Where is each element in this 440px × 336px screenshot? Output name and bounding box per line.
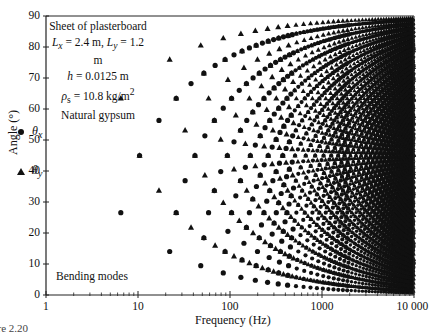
circle-marker <box>352 254 355 257</box>
circle-marker <box>306 110 310 114</box>
circle-marker <box>221 270 226 275</box>
circle-marker <box>297 66 301 70</box>
circle-marker <box>332 265 336 269</box>
circle-marker <box>285 283 290 288</box>
triangle-marker <box>324 69 329 74</box>
y-tick-label: 10 <box>29 257 41 269</box>
triangle-marker <box>320 130 325 135</box>
x-tick-label: 1 <box>43 300 49 312</box>
circle-marker <box>353 289 356 292</box>
circle-marker <box>327 275 331 279</box>
circle-marker <box>298 195 302 199</box>
triangle-marker <box>337 49 342 54</box>
circle-marker <box>332 276 336 280</box>
triangle-marker <box>246 95 252 100</box>
y-tick-label: 60 <box>29 102 41 114</box>
triangle-marker <box>259 265 265 270</box>
triangle-marker <box>290 79 296 84</box>
triangle-marker <box>212 242 218 247</box>
triangle-marker <box>303 192 308 197</box>
bending-modes-label: Bending modes <box>56 270 128 282</box>
circle-marker <box>367 290 370 293</box>
triangle-marker <box>280 271 286 276</box>
triangle-marker <box>301 170 306 175</box>
circle-marker <box>247 45 252 50</box>
triangle-marker <box>299 206 304 211</box>
circle-marker <box>278 57 283 62</box>
triangle-marker <box>313 77 318 82</box>
triangle-marker <box>331 30 336 35</box>
circle-marker <box>412 81 415 84</box>
circle-marker <box>358 273 361 276</box>
circle-marker <box>352 148 355 151</box>
triangle-marker <box>321 45 326 50</box>
circle-marker <box>294 128 298 132</box>
triangle-marker <box>319 72 324 77</box>
circle-marker <box>351 263 354 266</box>
triangle-marker <box>266 50 272 55</box>
circle-marker <box>364 290 367 293</box>
circle-marker <box>284 96 289 101</box>
circle-marker <box>306 93 310 97</box>
circle-marker <box>282 219 287 224</box>
info-dimensions: Lx = 2.4 m, Ly = 1.2 m <box>48 35 148 69</box>
circle-marker <box>238 128 243 133</box>
triangle-marker <box>241 65 247 70</box>
triangle-marker <box>351 53 355 57</box>
circle-marker <box>244 118 249 123</box>
circle-marker <box>362 266 365 269</box>
triangle-marker <box>321 113 326 118</box>
triangle-marker <box>345 18 350 23</box>
circle-marker <box>299 142 303 146</box>
triangle-marker <box>296 183 301 188</box>
circle-marker <box>304 131 308 135</box>
circle-marker <box>357 289 360 292</box>
triangle-marker <box>269 161 275 166</box>
triangle-marker <box>266 215 272 220</box>
triangle-marker <box>340 18 345 23</box>
triangle-marker <box>301 21 306 26</box>
circle-marker <box>357 281 360 284</box>
triangle-marker <box>323 57 328 62</box>
circle-marker <box>281 34 286 39</box>
circle-marker <box>287 139 292 144</box>
circle-marker <box>281 77 286 82</box>
circle-marker <box>231 52 236 57</box>
circle-marker <box>322 194 326 198</box>
circle-marker <box>329 137 333 141</box>
circle-marker <box>262 66 267 71</box>
circle-marker <box>412 113 415 116</box>
circle-marker <box>305 238 309 242</box>
triangle-marker <box>323 96 328 101</box>
triangle-marker <box>167 56 173 61</box>
circle-marker <box>331 165 335 169</box>
circle-marker <box>319 205 323 209</box>
circle-marker <box>250 109 255 114</box>
y-tick-label: 80 <box>29 40 41 52</box>
triangle-marker <box>315 158 320 163</box>
circle-marker <box>259 222 264 227</box>
triangle-marker <box>206 95 212 100</box>
circle-marker <box>350 289 353 292</box>
triangle-marker <box>285 23 291 28</box>
circle-marker <box>250 75 255 80</box>
circle-marker <box>354 272 357 275</box>
circle-marker <box>225 229 230 234</box>
triangle-marker <box>296 134 301 139</box>
circle-marker <box>301 159 305 163</box>
circle-marker <box>296 249 300 253</box>
triangle-marker <box>337 39 342 44</box>
circle-marker <box>167 249 172 254</box>
triangle-marker <box>225 77 231 82</box>
triangle-marker <box>271 268 277 273</box>
triangle-marker <box>252 28 258 33</box>
triangle-marker <box>332 41 337 46</box>
circle-marker <box>301 285 305 289</box>
circle-marker <box>350 271 353 274</box>
circle-marker <box>274 210 279 215</box>
triangle-marker <box>277 175 283 180</box>
triangle-marker <box>361 33 365 37</box>
triangle-marker <box>220 200 226 205</box>
circle-marker <box>272 85 277 90</box>
circle-marker <box>328 252 332 256</box>
